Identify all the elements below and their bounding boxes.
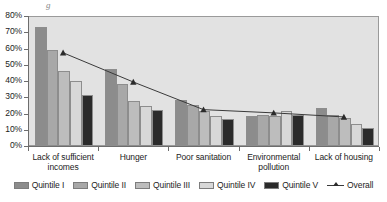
y-tick-label: 80% [5, 10, 22, 20]
bar [246, 116, 258, 146]
legend-item[interactable]: Overall [327, 180, 373, 190]
legend-label: Quintile IV [217, 180, 255, 190]
legend-swatch [73, 182, 88, 189]
y-tick-label: 70% [5, 26, 22, 36]
y-tick-mark [24, 97, 28, 98]
bar [128, 101, 140, 146]
legend-label: Quintile I [32, 180, 65, 190]
y-tick-label: 50% [5, 59, 22, 69]
chart-legend: Quintile IQuintile IIQuintile IIIQuintil… [0, 180, 387, 190]
bar [70, 81, 82, 146]
legend-swatch [264, 182, 279, 189]
bar [117, 84, 129, 146]
bar-group [169, 17, 239, 146]
bar [210, 116, 222, 146]
legend-item[interactable]: Quintile I [14, 180, 65, 190]
bar [292, 115, 304, 146]
y-tick-label: 20% [5, 108, 22, 118]
y-tick-mark [24, 130, 28, 131]
bar [82, 95, 94, 146]
legend-label: Quintile V [282, 180, 318, 190]
bar [58, 71, 70, 146]
legend-label: Quintile III [153, 180, 190, 190]
x-tick-mark [28, 147, 29, 151]
legend-label: Overall [347, 180, 373, 190]
y-tick-mark [24, 81, 28, 82]
x-tick-mark [239, 147, 240, 151]
bar-chart: g 0%10%20%30%40%50%60%70%80% Lack of suf… [0, 0, 387, 202]
bar [339, 118, 351, 146]
x-category-label: Lack of housing [309, 152, 379, 162]
legend-label: Quintile II [91, 180, 126, 190]
bar [199, 111, 211, 146]
y-tick-label: 0% [10, 140, 22, 150]
bar [152, 110, 164, 146]
x-category-label-line: Environmental [239, 152, 309, 162]
bar [175, 100, 187, 146]
legend-item[interactable]: Quintile IV [199, 180, 255, 190]
y-tick-label: 10% [5, 124, 22, 134]
x-category-label-line: Lack of housing [309, 152, 379, 162]
bar [140, 106, 152, 146]
x-axis-line [28, 146, 379, 147]
bar-group [99, 17, 169, 146]
x-tick-mark [98, 147, 99, 151]
clipped-text-artifact: g [46, 0, 51, 10]
y-tick-label: 30% [5, 91, 22, 101]
x-category-label: Lack of sufficientincomes [28, 152, 98, 172]
x-category-label: Hunger [98, 152, 168, 162]
x-category-label: Environmentalpollution [239, 152, 309, 172]
legend-line-marker [327, 181, 344, 189]
bar [47, 50, 59, 147]
bar [281, 111, 293, 146]
x-tick-mark [379, 147, 380, 151]
bar [316, 108, 328, 146]
bar-groups [29, 17, 378, 146]
y-tick-mark [24, 16, 28, 17]
x-category-label-line: Poor sanitation [168, 152, 238, 162]
y-tick-mark [24, 65, 28, 66]
x-tick-mark [168, 147, 169, 151]
bar [35, 27, 47, 146]
x-category-label-line: pollution [239, 162, 309, 172]
y-tick-mark [24, 49, 28, 50]
legend-swatch [199, 182, 214, 189]
bar-group [310, 17, 380, 146]
bar [187, 105, 199, 146]
bar [269, 116, 281, 146]
y-tick-mark [24, 32, 28, 33]
x-category-label-line: Lack of sufficient [28, 152, 98, 162]
x-tick-mark [309, 147, 310, 151]
x-category-label-line: Hunger [98, 152, 168, 162]
bar [362, 128, 374, 147]
bar [222, 119, 234, 146]
y-tick-mark [24, 114, 28, 115]
legend-item[interactable]: Quintile II [73, 180, 126, 190]
bar [257, 115, 269, 147]
y-tick-label: 60% [5, 43, 22, 53]
x-category-label: Poor sanitation [168, 152, 238, 162]
legend-triangle-icon [333, 182, 339, 186]
x-category-label-line: incomes [28, 162, 98, 172]
bar-group [29, 17, 99, 146]
legend-swatch [135, 182, 150, 189]
legend-item[interactable]: Quintile III [135, 180, 190, 190]
legend-swatch [14, 182, 29, 189]
legend-item[interactable]: Quintile V [264, 180, 318, 190]
bar-group [240, 17, 310, 146]
bar [327, 115, 339, 147]
bar [105, 69, 117, 146]
y-tick-label: 40% [5, 75, 22, 85]
bar [351, 124, 363, 146]
